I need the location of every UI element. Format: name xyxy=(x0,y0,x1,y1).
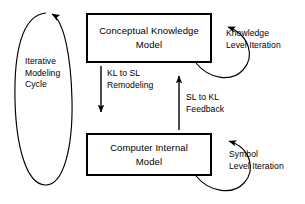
label-kl-to-sl-remodeling: KL to SL Remodeling xyxy=(107,68,169,91)
label-sl-to-kl-feedback: SL to KL Feedback xyxy=(186,92,242,115)
box-computer-internal-model-line2: Model xyxy=(136,155,162,169)
box-conceptual-knowledge-model: Conceptual Knowledge Model xyxy=(86,13,212,63)
box-computer-internal-model-line1: Computer Internal xyxy=(110,141,188,155)
label-iterative-modeling-cycle: Iterative Modeling Cycle xyxy=(25,56,77,91)
label-symbol-level-iteration: Symbol Level Iteration xyxy=(229,149,305,172)
box-conceptual-knowledge-model-line2: Model xyxy=(136,38,162,52)
box-conceptual-knowledge-model-line1: Conceptual Knowledge xyxy=(99,24,199,38)
diagram-canvas: Conceptual Knowledge Model Computer Inte… xyxy=(0,0,305,204)
label-knowledge-level-iteration: Knowledge Level Iteration xyxy=(226,28,304,51)
iterative-modeling-cycle-loop xyxy=(15,13,72,185)
box-computer-internal-model: Computer Internal Model xyxy=(86,133,212,176)
